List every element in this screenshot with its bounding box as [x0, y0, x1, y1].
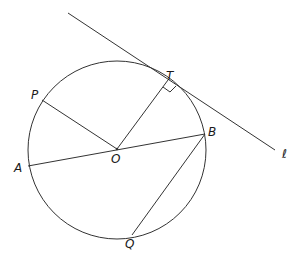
label-a: A	[13, 161, 22, 175]
center-point-o	[116, 148, 119, 151]
geometry-diagram: T P A O B Q ℓ	[0, 0, 297, 255]
label-q: Q	[125, 237, 134, 251]
label-p: P	[31, 88, 39, 102]
segment-ot	[117, 80, 168, 149]
label-b: B	[208, 125, 216, 139]
label-line-l: ℓ	[281, 147, 287, 161]
segment-bq	[132, 134, 205, 235]
label-o: O	[111, 152, 120, 166]
segment-op	[42, 100, 117, 149]
right-angle-marker	[163, 86, 176, 92]
